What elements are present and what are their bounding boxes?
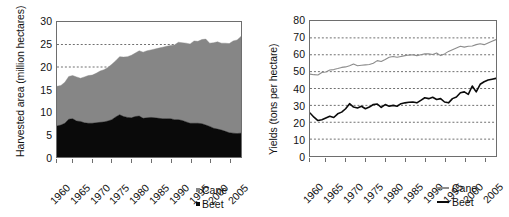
x-axis-tick-label: 1965	[320, 181, 345, 206]
y-axis-tick-labels-yields: 01020304050607080	[285, 0, 305, 217]
x-axis-tick-mark	[309, 158, 310, 162]
legend-yields: CaneBeet	[437, 181, 477, 209]
x-axis-tick-mark	[171, 159, 172, 163]
y-axis-tick-label: 70	[293, 32, 305, 43]
plot-area-yields	[309, 20, 497, 157]
x-axis-tick-mark	[72, 159, 73, 163]
y-axis-tick-label: 15	[40, 84, 52, 95]
x-axis-tick-mark	[405, 158, 406, 162]
x-axis-tick-mark	[485, 158, 486, 162]
y-axis-tick-label: 30	[293, 100, 305, 111]
line-series-svg	[310, 21, 496, 156]
y-axis-tick-label: 50	[293, 66, 305, 77]
legend-label: Beet	[202, 198, 224, 210]
x-axis-tick-mark	[465, 158, 466, 162]
y-axis-title-yields: Yields (tons per hectare)	[267, 44, 279, 156]
y-axis-tick-label: 0	[46, 153, 52, 164]
x-axis-tick-mark	[151, 159, 152, 163]
legend-swatch-icon	[196, 202, 200, 206]
x-axis-tick-mark	[92, 159, 93, 163]
x-axis-tick-label: 1975	[360, 181, 385, 206]
x-axis-tick-mark	[191, 159, 192, 163]
x-axis-tick-label: 1985	[146, 182, 171, 207]
x-axis-tick-label: 1985	[400, 181, 425, 206]
legend-swatch-icon	[196, 188, 200, 192]
legend-label: Cane	[452, 182, 477, 194]
x-axis-tick-label: 2005	[225, 182, 250, 207]
x-axis-tick-label: 1980	[380, 181, 405, 206]
x-axis-tick-mark	[425, 158, 426, 162]
legend-swatch-icon	[437, 187, 449, 189]
x-axis-tick-label: 1990	[166, 182, 191, 207]
plot-area-harvested-area	[56, 21, 242, 158]
legend-item: Cane	[196, 183, 227, 197]
y-axis-tick-label: 20	[40, 61, 52, 72]
y-axis-tick-labels-area: 051015202530	[32, 0, 52, 217]
x-axis-tick-mark	[131, 159, 132, 163]
stacked-area-series-svg	[57, 22, 241, 157]
x-axis-tick-mark	[325, 158, 326, 162]
legend-item: Beet	[196, 197, 227, 211]
legend-swatch-icon	[437, 201, 449, 203]
legend-item: Cane	[437, 181, 477, 195]
y-axis-tick-label: 10	[293, 135, 305, 146]
x-axis-tick-label: 2005	[480, 181, 505, 206]
y-axis-tick-label: 25	[40, 39, 52, 50]
y-axis-title-harvested-area: Harvested area (million hectares)	[14, 6, 26, 157]
legend-item: Beet	[437, 195, 477, 209]
y-axis-tick-label: 20	[293, 118, 305, 129]
x-axis-tick-mark	[385, 158, 386, 162]
x-axis-tick-mark	[445, 158, 446, 162]
x-axis-tick-mark	[210, 159, 211, 163]
figure-two-panel-charts: Harvested area (million hectares) 051015…	[0, 0, 509, 217]
x-axis-tick-mark	[365, 158, 366, 162]
y-axis-tick-label: 80	[293, 15, 305, 26]
chart-panel-harvested-area: Harvested area (million hectares) 051015…	[0, 0, 254, 217]
legend-label: Beet	[452, 196, 474, 208]
y-axis-tick-label: 30	[40, 16, 52, 27]
x-axis-tick-mark	[230, 159, 231, 163]
y-axis-tick-label: 60	[293, 49, 305, 60]
x-axis-tick-mark	[345, 158, 346, 162]
y-axis-tick-label: 40	[293, 83, 305, 94]
legend-label: Cane	[202, 184, 227, 196]
x-axis-tick-mark	[111, 159, 112, 163]
x-axis-tick-label: 1980	[127, 182, 152, 207]
y-axis-tick-label: 0	[299, 152, 305, 163]
legend-harvested-area: CaneBeet	[196, 183, 227, 211]
x-axis-tick-label: 1965	[67, 182, 92, 207]
y-axis-tick-label: 5	[46, 130, 52, 141]
x-axis-tick-label: 1970	[87, 182, 112, 207]
chart-panel-yields: Yields (tons per hectare) 01020304050607…	[254, 0, 509, 217]
x-axis-tick-label: 1975	[107, 182, 132, 207]
x-axis-tick-label: 1970	[340, 181, 365, 206]
y-axis-tick-label: 10	[40, 107, 52, 118]
x-axis-tick-mark	[56, 159, 57, 163]
